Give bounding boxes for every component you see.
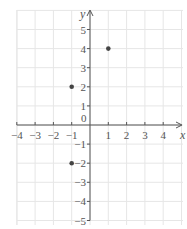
x-tick-label: −3 (29, 129, 41, 141)
y-axis-label: y (79, 7, 86, 21)
y-tick-label: 5 (81, 24, 87, 36)
x-tick-label: 1 (106, 129, 112, 141)
y-tick-label: 4 (81, 43, 87, 55)
y-tick-label: −2 (74, 157, 86, 169)
x-axis-label: x (179, 128, 186, 142)
x-tick-label: −2 (48, 129, 60, 141)
y-tick-label: 1 (81, 100, 87, 112)
y-tick-label: −3 (74, 176, 86, 188)
x-tick-label: −4 (11, 129, 23, 141)
coordinate-plane: −4−3−2−1123454321−1−2−3−4−5 x y 0 (0, 0, 187, 229)
data-point (69, 85, 74, 90)
y-tick-label: −1 (74, 138, 86, 150)
data-point (106, 46, 111, 51)
y-tick-label: 3 (81, 62, 87, 74)
y-tick-label: 2 (81, 81, 87, 93)
y-tick-label: −4 (74, 195, 86, 207)
x-tick-label: 3 (142, 129, 148, 141)
grid (17, 10, 183, 225)
axes (17, 10, 182, 221)
data-point (69, 161, 74, 166)
x-tick-label: 4 (160, 129, 166, 141)
origin-label: 0 (81, 112, 87, 124)
y-tick-label: −5 (74, 215, 86, 227)
x-tick-label: 2 (124, 129, 130, 141)
